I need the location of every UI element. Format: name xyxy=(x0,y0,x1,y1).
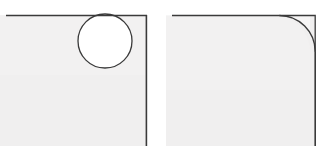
panel-face-highlight xyxy=(166,15,310,90)
panel-face-highlight xyxy=(0,15,147,75)
figure-circular-cutout xyxy=(0,0,166,154)
figure-radiused-corner xyxy=(166,0,332,154)
circular-cutout-drawing xyxy=(0,0,166,154)
radiused-corner-drawing xyxy=(166,0,332,154)
diagram-canvas xyxy=(0,0,332,154)
